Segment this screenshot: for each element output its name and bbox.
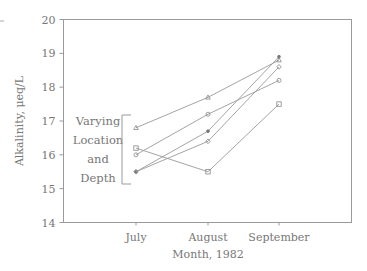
y-axis-title: Alkalinity, μeq/L [13,75,26,167]
y-tick-label: 14 [42,217,56,230]
x-tick-label: August [187,231,228,244]
bracket-icon [122,115,131,184]
annotation-varying-location-depth: Varying Location and Depth [73,114,131,185]
x-tick-label: July [124,231,147,244]
y-tick-label: 17 [42,115,56,128]
x-axis: JulyAugustSeptember [124,223,310,245]
series-line [136,67,279,172]
annotation-line: Depth [80,171,116,185]
alkalinity-chart: 14151617181920 JulyAugustSeptember Alkal… [0,0,367,271]
y-tick-label: 20 [42,14,56,27]
data-point-dot-icon [207,130,210,133]
series-circle [134,78,281,156]
y-axis: 14151617181920 [42,14,64,230]
x-axis-title: Month, 1982 [172,248,243,261]
data-point-dot-icon [278,55,281,58]
y-tick-label: 15 [42,183,56,196]
y-tick-label: 16 [42,149,56,162]
series-triangle [134,58,282,130]
y-tick-label: 19 [42,47,56,60]
series-group [134,55,282,174]
annotation-line: Location [73,133,124,147]
x-tick-label: September [248,231,310,244]
annotation-line: and [87,152,109,166]
y-tick-label: 18 [42,81,56,94]
series-line [136,60,279,128]
annotation-line: Varying [75,114,121,128]
